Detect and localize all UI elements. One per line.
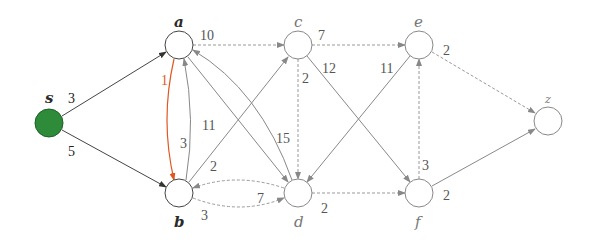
node-label-z: z <box>544 93 551 106</box>
node-label-f: f <box>414 213 423 231</box>
weight-e-z: 2 <box>443 43 450 58</box>
edge-f-z <box>432 129 535 186</box>
node-label-d: d <box>294 213 304 231</box>
weight-c-f: 12 <box>322 61 336 76</box>
weight-s-a: 3 <box>68 91 75 106</box>
node-label-e: e <box>414 13 423 31</box>
node-e[interactable] <box>405 31 433 59</box>
weight-a-c: 10 <box>200 28 214 43</box>
weight-f-z: 2 <box>443 188 450 203</box>
weight-d-b: 7 <box>257 191 264 206</box>
weight-s-b: 5 <box>68 144 75 159</box>
node-f[interactable] <box>405 179 433 207</box>
node-z[interactable] <box>534 107 562 135</box>
node-s[interactable] <box>35 109 63 137</box>
weight-b-a: 3 <box>180 136 187 151</box>
weight-c-e: 7 <box>318 28 325 43</box>
node-a[interactable] <box>165 31 193 59</box>
weight-f-e: 3 <box>422 158 429 173</box>
weight-d-a: 15 <box>276 131 290 146</box>
weight-a-d: 11 <box>202 118 215 133</box>
weight-c-d: 2 <box>302 71 309 86</box>
edge-b-a <box>184 59 191 180</box>
weight-d-f: 2 <box>321 201 328 216</box>
weight-b-d: 3 <box>201 208 208 223</box>
weight-b-c: 2 <box>210 159 217 174</box>
weight-e-d: 11 <box>380 61 393 76</box>
graph-diagram: s a b c d e f z 3 5 1 3 10 11 15 2 3 7 2… <box>0 0 590 251</box>
node-label-a: a <box>174 13 184 31</box>
edge-s-a <box>62 52 166 116</box>
node-d[interactable] <box>284 179 312 207</box>
edge-b-d <box>193 198 284 207</box>
node-c[interactable] <box>284 31 312 59</box>
edge-d-b <box>193 180 284 188</box>
edge-s-b <box>62 130 166 187</box>
node-label-c: c <box>294 13 303 31</box>
edge-a-b <box>167 59 174 180</box>
node-b[interactable] <box>165 179 193 207</box>
edge-e-z <box>432 52 535 113</box>
edge-weights: 3 5 1 3 10 11 15 2 3 7 2 7 12 11 2 3 2 2 <box>68 28 450 223</box>
node-label-b: b <box>174 213 185 231</box>
weight-a-b: 1 <box>161 73 168 88</box>
node-label-s: s <box>45 89 54 107</box>
